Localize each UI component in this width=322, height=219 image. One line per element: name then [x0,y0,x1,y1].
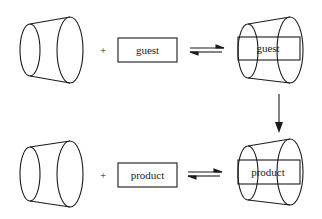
equilibrium-arrows-row1 [190,45,224,55]
guest-label: guest [136,44,159,56]
host-guest-diagram: + guest guest + product [0,0,322,219]
host-cylinder-bottom-left [20,141,83,207]
diagram-canvas: + guest guest + product [0,0,322,219]
complex-product-label: product [251,166,285,178]
down-arrow [275,94,283,133]
plus-sign-row1: + [100,44,106,56]
complex-guest-label: guest [256,42,279,54]
plus-sign-row2: + [100,169,106,181]
equilibrium-arrows-row2 [188,169,222,179]
product-label: product [131,169,165,181]
host-cylinder-top-left [20,17,83,83]
guest-box: guest [118,38,177,62]
product-box: product [118,163,177,187]
